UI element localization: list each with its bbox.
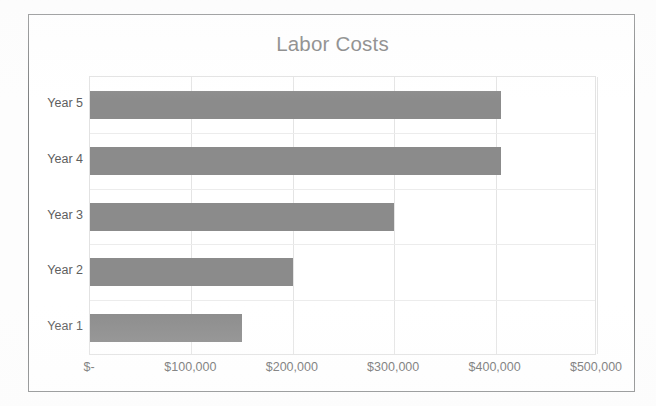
category-gridline (90, 300, 595, 301)
x-axis-tick-label: $100,000 (164, 360, 216, 374)
plot-area (89, 76, 596, 355)
x-axis-tick-label: $200,000 (266, 360, 318, 374)
x-axis-tick-label: $400,000 (469, 360, 521, 374)
y-axis-label: Year 5 (47, 96, 83, 110)
x-axis-tick-label: $300,000 (367, 360, 419, 374)
bar-year-1[interactable] (90, 314, 242, 342)
y-axis-label: Year 1 (47, 319, 83, 333)
category-gridline (90, 133, 595, 134)
x-axis-labels: $-$100,000$200,000$300,000$400,000$500,0… (29, 360, 636, 386)
category-gridline (90, 244, 595, 245)
x-axis-tick-label: $- (83, 360, 94, 374)
category-gridline (90, 189, 595, 190)
chart-frame: Labor Costs Year 5Year 4Year 3Year 2Year… (28, 14, 635, 392)
y-axis-label: Year 3 (47, 208, 83, 222)
bar-year-4[interactable] (90, 147, 501, 175)
y-axis-labels: Year 5Year 4Year 3Year 2Year 1 (29, 76, 83, 355)
x-axis-tick-label: $500,000 (570, 360, 622, 374)
bar-year-3[interactable] (90, 203, 394, 231)
bar-year-2[interactable] (90, 258, 293, 286)
page-title: Labor Costs (29, 32, 636, 56)
bar-year-5[interactable] (90, 91, 501, 119)
vertical-gridline (597, 77, 598, 354)
y-axis-label: Year 4 (47, 152, 83, 166)
y-axis-label: Year 2 (47, 263, 83, 277)
chart-screenshot: Labor Costs Year 5Year 4Year 3Year 2Year… (0, 0, 656, 406)
